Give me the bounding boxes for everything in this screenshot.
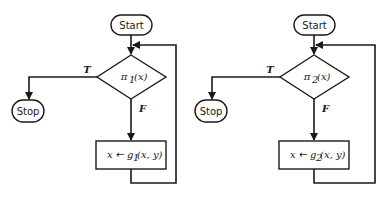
- stop-label: Stop: [17, 106, 40, 117]
- assign-arrow: ←: [116, 149, 124, 160]
- predicate-argument: (x): [134, 71, 148, 82]
- predicate-argument: (x): [317, 71, 331, 82]
- false-label: F: [321, 103, 330, 114]
- stop-terminal: Stop: [12, 100, 44, 122]
- assign-args: (x, y): [137, 149, 163, 160]
- assignment-box: x ← g 1 (x, y): [96, 141, 166, 169]
- start-label: Start: [302, 20, 327, 31]
- decision-diamond: π 1 (x): [97, 55, 166, 99]
- false-label: F: [138, 103, 147, 114]
- assignment-box: x ← g 2 (x, y): [279, 141, 349, 169]
- assign-args: (x, y): [320, 149, 346, 160]
- stop-terminal: Stop: [195, 100, 227, 122]
- predicate-symbol: π: [303, 71, 311, 82]
- flowchart-2: Start π 2 (x) T Stop F x ← g 2 (x, y): [195, 15, 375, 183]
- assign-arrow: ←: [299, 149, 307, 160]
- assign-lhs: x: [290, 149, 296, 160]
- predicate-symbol: π: [120, 71, 128, 82]
- start-label: Start: [119, 20, 144, 31]
- true-label: T: [83, 64, 92, 75]
- decision-diamond: π 2 (x): [280, 55, 349, 99]
- flowchart-diagram: Start π 1 (x) T Stop F x ← g 1 (x, y): [0, 0, 390, 200]
- true-label: T: [266, 64, 275, 75]
- start-terminal: Start: [294, 15, 335, 35]
- start-terminal: Start: [111, 15, 152, 35]
- assign-lhs: x: [107, 149, 113, 160]
- stop-label: Stop: [200, 106, 223, 117]
- true-branch-arrow: [29, 77, 97, 99]
- flowchart-1: Start π 1 (x) T Stop F x ← g 1 (x, y): [12, 15, 176, 183]
- true-branch-arrow: [212, 77, 280, 99]
